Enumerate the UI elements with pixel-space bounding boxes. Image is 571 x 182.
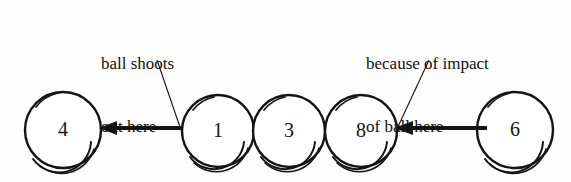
ball-6-label: 6 xyxy=(510,118,520,140)
ball-3: 3 xyxy=(253,95,325,172)
ball-1: 1 xyxy=(182,95,254,172)
annotation-ball-shoots-out-here: ball shoots out here xyxy=(101,11,174,179)
ball-4-label: 4 xyxy=(58,118,68,140)
ball-1-label: 1 xyxy=(213,119,223,141)
annotation-because-of-impact-of-ball-here: because of impact of ball here xyxy=(366,11,489,179)
ball-8-label: 8 xyxy=(356,119,366,141)
annotation-right-line-1: because of impact xyxy=(366,53,489,74)
annotation-left-line-1: ball shoots xyxy=(101,53,174,74)
annotation-right-line-2: of ball here xyxy=(366,116,489,137)
ball-4: 4 xyxy=(25,92,101,173)
ball-3-label: 3 xyxy=(284,119,294,141)
annotation-left-line-2: out here xyxy=(101,116,174,137)
billiard-ball-diagram: 4 1 3 8 xyxy=(0,0,571,182)
